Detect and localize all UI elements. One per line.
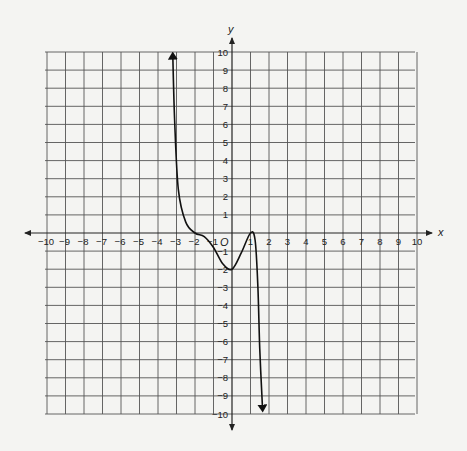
y-tick-label: 2	[223, 191, 228, 202]
y-tick-label: 10	[217, 47, 228, 58]
x-tick-label: 6	[340, 236, 345, 247]
x-tick-label: −2	[189, 236, 200, 247]
y-tick-label: −4	[217, 300, 228, 311]
x-axis-label: x	[437, 226, 444, 238]
x-tick-label: −5	[133, 236, 144, 247]
coordinate-plane: −10−9−8−7−6−5−4−3−2−112345678910 −10−9−8…	[0, 0, 467, 451]
y-tick-label: 1	[223, 209, 228, 220]
y-tick-label: −6	[217, 336, 228, 347]
x-tick-label: −7	[96, 236, 107, 247]
origin-label: O	[220, 236, 229, 248]
y-tick-label: 5	[223, 137, 228, 148]
y-tick-label: −8	[217, 372, 228, 383]
y-tick-label: −7	[217, 354, 228, 365]
x-tick-label: 4	[303, 236, 308, 247]
x-tick-label: 2	[266, 236, 271, 247]
x-tick-label: 5	[322, 236, 327, 247]
x-tick-label: −4	[152, 236, 163, 247]
y-tick-label: 7	[223, 101, 228, 112]
y-tick-label: −2	[217, 264, 228, 275]
axes	[25, 38, 432, 430]
x-tick-label: −6	[115, 236, 126, 247]
y-tick-label: −5	[217, 318, 228, 329]
y-axis-label: y	[227, 23, 235, 35]
x-tick-label: 7	[359, 236, 364, 247]
y-tick-label: 4	[223, 155, 228, 166]
y-tick-label: 8	[223, 83, 228, 94]
x-tick-label: −9	[59, 236, 70, 247]
x-tick-labels: −10−9−8−7−6−5−4−3−2−112345678910	[38, 236, 422, 247]
y-tick-label: 9	[223, 65, 228, 76]
x-tick-label: 3	[285, 236, 290, 247]
y-tick-label: −3	[217, 282, 228, 293]
x-tick-label: 10	[412, 236, 423, 247]
x-tick-label: −3	[170, 236, 181, 247]
y-tick-label: 6	[223, 119, 228, 130]
y-tick-label: −10	[212, 409, 228, 420]
x-tick-label: −8	[78, 236, 89, 247]
y-tick-label: 3	[223, 173, 228, 184]
x-tick-label: 9	[396, 236, 401, 247]
x-tick-label: −10	[38, 236, 54, 247]
x-tick-label: 8	[377, 236, 382, 247]
y-tick-label: −9	[217, 390, 228, 401]
